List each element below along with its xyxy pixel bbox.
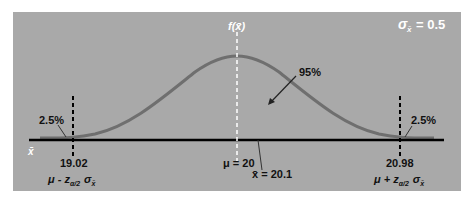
fx-label: f(x̄) xyxy=(228,20,245,32)
sigma-subscript: x̄ xyxy=(406,25,412,34)
upper-bound-value: 20.98 xyxy=(386,157,414,169)
lower-bound-formula: μ - zα/2σx̄ xyxy=(47,173,96,187)
left-tail-label: 2.5% xyxy=(39,114,64,126)
upper-bound-formula: μ + zα/2σx̄ xyxy=(373,173,425,187)
center-area-arrow xyxy=(270,76,296,103)
x-axis-label: x̄ xyxy=(27,146,34,157)
sigma-value: = 0.5 xyxy=(416,17,445,32)
sample-mean-label: x̄ = 20.1 xyxy=(252,168,292,180)
left-tail-pointer xyxy=(58,125,66,137)
right-tail-label: 2.5% xyxy=(411,114,436,126)
sample-mean-pointer xyxy=(258,140,262,170)
center-area-label: 95% xyxy=(299,66,321,78)
right-tail-pointer xyxy=(405,126,412,137)
normal-curve-chart: σ x̄ = 0.5 f(x̄) 95% 2.5% 2.5% x̄ 19.02 … xyxy=(0,0,474,207)
lower-bound-value: 19.02 xyxy=(60,157,88,169)
mean-label: μ = 20 xyxy=(223,157,255,169)
